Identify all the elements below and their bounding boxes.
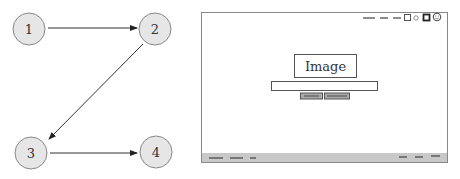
- node-4-label: 4: [152, 145, 160, 160]
- node-3-label: 3: [27, 146, 35, 161]
- node-4: 4: [140, 136, 172, 168]
- node-3: 3: [15, 137, 47, 169]
- text-input[interactable]: [272, 82, 378, 91]
- circle-icon[interactable]: [414, 16, 418, 20]
- button-2[interactable]: [325, 93, 350, 99]
- wireframe-window: Image: [202, 13, 448, 163]
- status-bar: [202, 153, 447, 162]
- smiley-icon[interactable]: [433, 13, 441, 21]
- filled-square-icon[interactable]: [424, 15, 430, 21]
- node-2: 2: [139, 13, 171, 45]
- node-1-label: 1: [25, 22, 33, 37]
- button-1[interactable]: [301, 93, 323, 99]
- image-placeholder-label: Image: [305, 59, 347, 74]
- flow-diagram: 1 2 3 4: [13, 13, 172, 169]
- square-icon[interactable]: [405, 15, 411, 21]
- node-2-label: 2: [151, 22, 159, 37]
- node-1: 1: [13, 13, 45, 45]
- edge-2-3: [49, 44, 143, 139]
- image-placeholder: Image: [295, 55, 357, 78]
